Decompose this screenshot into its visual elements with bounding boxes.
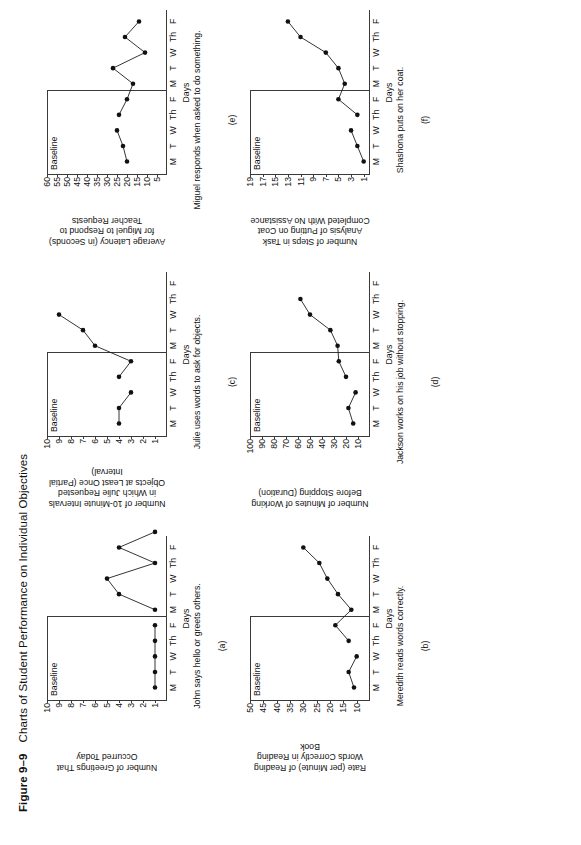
data-series: [47, 535, 167, 700]
data-point: [351, 421, 356, 426]
y-axis-tick-mark: [330, 700, 331, 703]
y-axis-tick-mark: [147, 174, 148, 177]
y-axis-tick-label: 20: [326, 703, 335, 713]
data-point: [115, 128, 120, 133]
y-axis-tick-label: 13: [284, 177, 293, 187]
plot-area: 102030405060708090100MTWThFMTWThFBaselin…: [250, 272, 370, 437]
y-axis-tick-label: 5: [153, 177, 162, 182]
plot-area: 12345678910MTWThFMTWThFBaseline: [47, 536, 167, 701]
x-axis-title: Days: [384, 272, 394, 437]
chart-panel-f: 135791113151719MTWThFMTWThFBaselineNumbe…: [250, 1, 426, 253]
y-axis-tick-mark: [346, 436, 347, 439]
data-point: [301, 545, 306, 550]
x-axis-tick-label: W: [372, 48, 381, 56]
y-axis-title-wrapper: Number of 10-Minute Intervals in Which J…: [47, 495, 167, 509]
y-axis-tick-label: 40: [83, 177, 92, 187]
y-axis-tick-label: 20: [342, 439, 351, 449]
x-axis-title: Days: [384, 10, 394, 175]
series-line: [113, 21, 145, 114]
y-axis-title: Number of Minutes of Working Before Stop…: [250, 488, 370, 509]
y-axis-tick-mark: [277, 700, 278, 703]
y-axis-tick-label: 30: [330, 439, 339, 449]
y-axis-tick-mark: [107, 700, 108, 703]
y-axis-tick-mark: [364, 174, 365, 177]
data-point: [342, 81, 347, 86]
y-axis-tick-label: 7: [79, 703, 88, 708]
y-axis-tick-label: 10: [43, 703, 52, 713]
y-axis-tick-mark: [263, 174, 264, 177]
y-axis-tick-label: 4: [115, 439, 124, 444]
x-axis-tick-label: F: [372, 623, 381, 628]
x-axis-tick-label: W: [372, 388, 381, 396]
x-axis-tick-label: F: [169, 359, 178, 364]
figure-page: Figure 9–9Charts of Student Performance …: [0, 0, 581, 845]
y-axis-tick-label: 1: [151, 439, 160, 444]
y-axis-tick-mark: [87, 174, 88, 177]
series-line: [107, 532, 155, 610]
y-axis-tick-mark: [343, 700, 344, 703]
y-axis-tick-mark: [77, 174, 78, 177]
y-axis-tick-mark: [57, 174, 58, 177]
x-axis-tick-label: Th: [169, 294, 178, 304]
y-axis-tick-label: 40: [272, 703, 281, 713]
y-axis-tick-mark: [275, 174, 276, 177]
y-axis-tick-mark: [131, 436, 132, 439]
data-point: [123, 35, 128, 40]
x-axis-tick-label: Th: [169, 636, 178, 646]
data-series: [250, 9, 370, 174]
x-axis-tick-label: T: [169, 405, 178, 410]
chart-panel-e: 51015202530354045505560MTWThFMTWThFBasel…: [47, 1, 223, 253]
y-axis-title: Number of 10-Minute Intervals in Which J…: [47, 467, 167, 509]
y-axis-tick-label: 15: [133, 177, 142, 187]
data-point: [153, 685, 158, 690]
chart-panel-d: 102030405060708090100MTWThFMTWThFBaselin…: [250, 263, 426, 515]
x-axis-tick-label: Th: [169, 32, 178, 42]
y-axis-tick-label: 8: [67, 703, 76, 708]
x-axis-tick-label: F: [372, 281, 381, 286]
data-point: [333, 623, 338, 628]
y-axis-tick-mark: [326, 174, 327, 177]
x-axis-tick-label: F: [372, 545, 381, 550]
y-axis-tick-label: 60: [43, 177, 52, 187]
x-axis-tick-label: T: [169, 66, 178, 71]
y-axis-tick-label: 10: [43, 439, 52, 449]
y-axis-tick-mark: [71, 436, 72, 439]
data-point: [81, 328, 86, 333]
data-point: [117, 406, 122, 411]
data-point: [298, 35, 303, 40]
data-point: [125, 159, 130, 164]
y-axis-tick-mark: [59, 436, 60, 439]
x-axis-tick-label: Th: [372, 110, 381, 120]
panel-id: (f): [420, 1, 430, 239]
data-point: [317, 561, 322, 566]
data-point: [323, 50, 328, 55]
data-point: [117, 113, 122, 118]
y-axis-tick-mark: [317, 700, 318, 703]
data-point: [57, 312, 62, 317]
chart-panel-a: 12345678910MTWThFMTWThFBaselineNumber of…: [47, 527, 223, 779]
x-axis-tick-label: T: [372, 143, 381, 148]
x-axis-tick-label: F: [372, 359, 381, 364]
data-point: [344, 375, 349, 380]
x-axis-tick-label: F: [169, 19, 178, 24]
y-axis-tick-label: 45: [259, 703, 268, 713]
y-axis-title: Rate (per Minute) of Reading Words Corre…: [250, 742, 370, 774]
y-axis-title: Number of Steps in Task Analysis of Putt…: [250, 216, 370, 248]
data-point: [143, 50, 148, 55]
y-axis-tick-mark: [338, 174, 339, 177]
figure-caption: Figure 9–9Charts of Student Performance …: [17, 454, 29, 812]
y-axis-tick-mark: [298, 436, 299, 439]
y-axis-tick-label: 15: [339, 703, 348, 713]
x-axis-tick-label: T: [169, 328, 178, 333]
x-axis-tick-label: M: [169, 342, 178, 349]
y-axis-tick-label: 10: [354, 439, 363, 449]
y-axis-tick-label: 35: [286, 703, 295, 713]
y-axis-tick-label: 70: [282, 439, 291, 449]
y-axis-tick-mark: [250, 700, 251, 703]
data-point: [346, 406, 351, 411]
panel-caption: Shashona puts on her coat.: [395, 1, 406, 239]
y-axis-tick-label: 9: [55, 439, 64, 444]
y-axis-tick-label: 25: [113, 177, 122, 187]
x-axis-tick-label: W: [372, 574, 381, 582]
data-point: [328, 328, 333, 333]
